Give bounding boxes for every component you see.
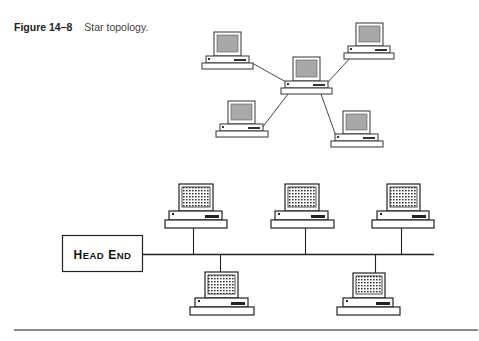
star-computer-bottom-right xyxy=(331,111,383,147)
cable-bottom-left xyxy=(262,94,288,128)
bus-computer-bottom-1 xyxy=(190,272,254,315)
cable-top-left xyxy=(252,63,286,82)
computer-icon xyxy=(344,23,394,59)
computer-icon xyxy=(372,184,434,228)
network-diagram: HEADEND xyxy=(0,0,479,341)
computer-icon xyxy=(337,273,400,315)
bus-drop-cables xyxy=(194,228,402,273)
star-topology xyxy=(202,23,394,147)
computer-icon xyxy=(271,184,334,228)
computer-icon xyxy=(331,111,383,147)
head-end-label: HEADEND xyxy=(74,248,132,262)
computer-icon xyxy=(165,184,227,228)
bus-topology: HEADEND xyxy=(63,184,435,315)
star-computer-top-left xyxy=(202,32,253,69)
star-computer-top-right xyxy=(344,23,394,59)
computer-icon xyxy=(202,32,253,69)
star-computer-center-hub xyxy=(281,57,332,94)
computer-icon xyxy=(190,272,254,315)
bottom-rule-divider xyxy=(14,329,478,331)
bus-computer-bottom-2 xyxy=(337,273,400,315)
computer-icon xyxy=(281,57,332,94)
computer-icon xyxy=(216,101,268,137)
cable-top-right xyxy=(328,56,352,82)
bus-computer-top-1 xyxy=(165,184,227,228)
head-end-box: HEADEND xyxy=(63,236,143,272)
star-computer-bottom-left xyxy=(216,101,268,137)
bus-computer-top-3 xyxy=(372,184,434,228)
bus-computer-top-2 xyxy=(271,184,334,228)
cable-bottom-right xyxy=(321,94,337,139)
